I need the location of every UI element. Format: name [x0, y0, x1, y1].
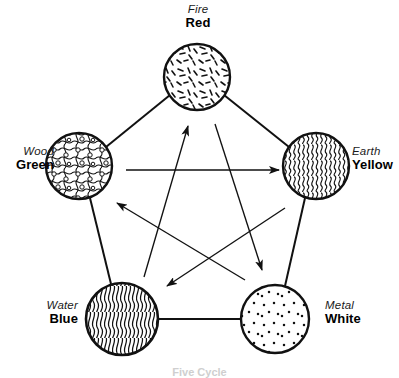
wood-color-label: Green — [2, 158, 54, 173]
arrow-earth-to-water — [167, 208, 285, 286]
node-label-water: Water Blue — [28, 299, 78, 326]
node-wood-circle[interactable] — [46, 133, 112, 199]
water-color-label: Blue — [28, 312, 78, 327]
water-element-label: Water — [28, 299, 78, 312]
node-label-wood: Wood Green — [2, 145, 54, 172]
fire-color-label: Red — [148, 16, 248, 31]
edge-earth-metal — [285, 198, 305, 286]
earth-color-label: Yellow — [352, 158, 398, 173]
five-elements-diagram: Fire Red Wood Green Earth Yellow Water B… — [0, 0, 399, 378]
figure-caption: Five Cycle — [0, 366, 399, 378]
node-earth-circle[interactable] — [283, 133, 349, 199]
node-water-circle[interactable] — [86, 283, 158, 355]
node-label-metal: Metal White — [325, 299, 379, 326]
inner-pentagram-arrows — [117, 124, 285, 286]
node-metal-circle[interactable] — [241, 285, 309, 353]
metal-element-label: Metal — [325, 299, 379, 312]
metal-color-label: White — [325, 312, 379, 327]
node-label-earth: Earth Yellow — [352, 145, 398, 172]
wood-element-label: Wood — [2, 145, 54, 158]
node-fire-circle[interactable] — [164, 44, 230, 110]
arrow-fire-to-metal — [215, 124, 262, 270]
fire-element-label: Fire — [148, 3, 248, 16]
arrow-water-to-fire — [144, 126, 188, 277]
element-circles — [46, 44, 349, 355]
edge-fire-earth — [224, 95, 289, 147]
arrow-metal-to-wood — [117, 203, 245, 280]
node-label-fire: Fire Red — [148, 3, 248, 30]
earth-element-label: Earth — [352, 145, 398, 158]
edge-wood-fire — [106, 95, 170, 147]
edge-water-wood — [90, 198, 111, 284]
